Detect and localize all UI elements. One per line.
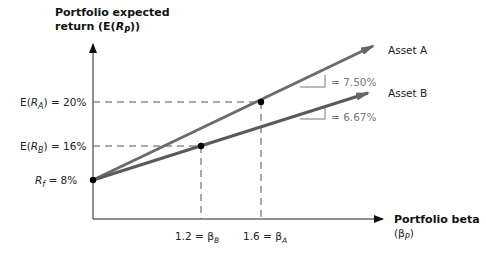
x-axis-title: Portfolio beta — [394, 213, 480, 226]
point-b — [198, 143, 204, 149]
ytick-eb: E(RB) = 16% — [20, 140, 86, 155]
x-axis-subtitle: (βP) — [394, 227, 414, 242]
slope-label-a: = 7.50% — [331, 76, 377, 88]
guide-lines — [93, 102, 261, 219]
legend-asset-b: Asset B — [388, 87, 427, 99]
capm-chart: Portfolio expected return (E(RP)) E(RA) … — [0, 0, 486, 258]
ytick-rf: Rf = 8% — [35, 174, 77, 189]
point-rf — [90, 177, 96, 183]
point-a — [258, 99, 264, 105]
legend-asset-a: Asset A — [388, 44, 428, 56]
y-axis-title-line2: return (E(RP)) — [55, 20, 140, 35]
slope-triangle-a — [300, 75, 325, 87]
xtick-beta-b: 1.2 = βB — [175, 230, 219, 245]
y-axis-title-line1: Portfolio expected — [55, 6, 170, 19]
xtick-beta-a: 1.6 = βA — [243, 230, 287, 245]
slope-label-b: = 6.67% — [331, 111, 377, 123]
asset-b-line — [93, 93, 368, 180]
ytick-ea: E(RA) = 20% — [20, 96, 86, 111]
